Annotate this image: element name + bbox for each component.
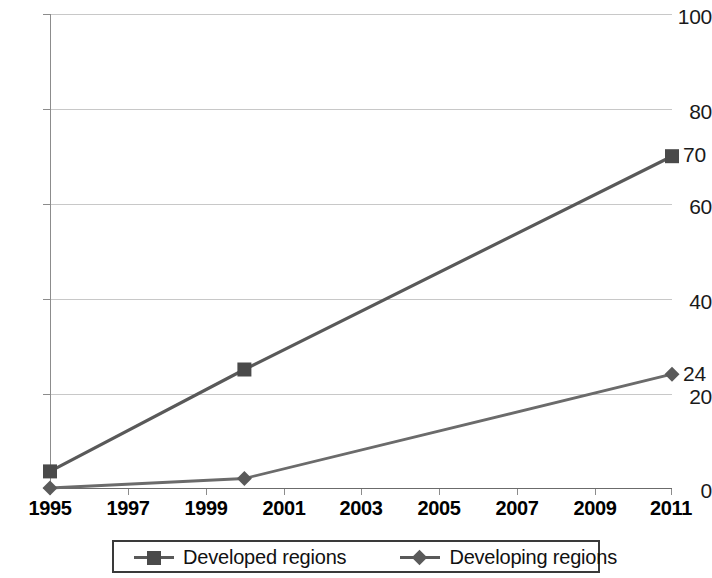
y-axis-label-80: 80 [672, 101, 712, 122]
legend-item-developed[interactable]: Developed regions [134, 542, 346, 571]
y-axis-label-20: 20 [672, 386, 712, 407]
legend-label-developing: Developing regions [449, 547, 617, 567]
x-tick-2007 [517, 489, 518, 495]
y-tick-40 [43, 299, 50, 300]
legend-item-developing[interactable]: Developing regions [400, 542, 617, 571]
x-tick-2009 [595, 489, 596, 495]
x-axis-label-2005: 2005 [418, 498, 461, 518]
square-marker-icon [134, 549, 174, 565]
x-tick-2001 [284, 489, 285, 495]
y-axis-label-60: 60 [672, 196, 712, 217]
line-chart: 100 80 60 40 20 0 1995 1997 1999 2001 20… [0, 0, 712, 578]
x-tick-1999 [206, 489, 207, 495]
x-axis-label-2001: 2001 [263, 498, 306, 518]
gridline-100 [50, 14, 672, 15]
gridline-80 [50, 109, 672, 110]
y-tick-80 [43, 109, 50, 110]
x-tick-1995 [50, 489, 51, 495]
diamond-marker-icon [400, 549, 440, 565]
x-axis-label-2009: 2009 [574, 498, 617, 518]
y-tick-20 [43, 394, 50, 395]
x-tick-2005 [439, 489, 440, 495]
x-axis-label-1995: 1995 [29, 498, 72, 518]
data-label-developed-end: 70 [683, 144, 706, 165]
x-axis-label-2003: 2003 [340, 498, 383, 518]
x-axis-label-2007: 2007 [496, 498, 539, 518]
plot-area [50, 14, 672, 488]
x-tick-1997 [128, 489, 129, 495]
x-axis-label-2011: 2011 [650, 498, 692, 518]
y-tick-60 [43, 204, 50, 205]
y-tick-0 [43, 488, 50, 489]
x-tick-2011 [671, 489, 672, 495]
x-axis-label-1999: 1999 [185, 498, 228, 518]
y-axis-label-40: 40 [672, 291, 712, 312]
y-axis-label-100: 100 [672, 6, 712, 27]
data-label-developing-end: 24 [683, 363, 706, 384]
gridline-40 [50, 299, 672, 300]
y-tick-100 [43, 14, 50, 15]
y-axis-line [50, 14, 51, 489]
x-tick-2003 [361, 489, 362, 495]
x-axis-label-1997: 1997 [107, 498, 150, 518]
gridline-20 [50, 394, 672, 395]
chart-legend: Developed regions Developing regions [112, 540, 600, 573]
legend-label-developed: Developed regions [183, 547, 346, 567]
gridline-60 [50, 204, 672, 205]
